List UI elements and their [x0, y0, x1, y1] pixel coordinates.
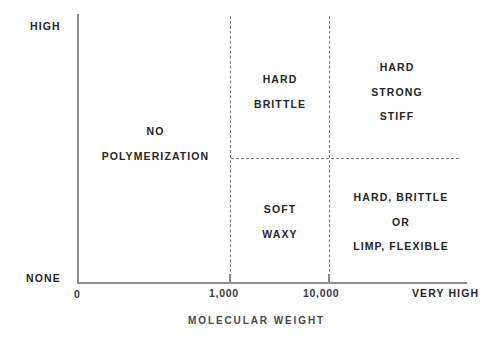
y-axis-title: CRYSTALLINITY [0, 84, 1, 186]
x-axis-label-1000: 1,000 [209, 288, 239, 299]
region-line: BRITTLE [234, 92, 326, 117]
region-line: STIFF [333, 104, 461, 129]
region-label-hard-strong-stiff: HARD STRONG STIFF [333, 55, 461, 129]
x-axis-title: MOLECULAR WEIGHT [188, 316, 325, 326]
region-line: STRONG [333, 80, 461, 105]
region-line: OR [333, 210, 469, 235]
y-axis-line [77, 14, 79, 284]
x-axis-label-zero: 0 [74, 289, 81, 300]
region-line: HARD [234, 67, 326, 92]
region-label-soft-waxy: SOFT WAXY [234, 197, 326, 246]
y-axis-label-high: HIGH [30, 21, 61, 32]
region-label-hard-brittle-or-limp-flexible: HARD, BRITTLE OR LIMP, FLEXIBLE [333, 185, 469, 259]
region-line: NO [83, 119, 228, 144]
region-line: HARD, BRITTLE [333, 185, 469, 210]
divider-vertical-10000 [329, 16, 330, 282]
region-line: POLYMERIZATION [83, 144, 228, 169]
crystallinity-molecular-weight-chart: HIGH NONE 0 1,000 10,000 VERY HIGH MOLEC… [0, 0, 487, 343]
x-axis-label-very-high: VERY HIGH [412, 288, 479, 299]
region-line: LIMP, FLEXIBLE [333, 234, 469, 259]
region-line: SOFT [234, 197, 326, 222]
x-axis-label-10000: 10,000 [303, 288, 339, 299]
y-axis-label-none: NONE [26, 273, 61, 284]
region-label-hard-brittle: HARD BRITTLE [234, 67, 326, 116]
divider-vertical-1000 [230, 16, 231, 282]
region-line: HARD [333, 55, 461, 80]
x-axis-line [77, 282, 467, 284]
region-label-no-polymerization: NO POLYMERIZATION [83, 119, 228, 168]
divider-horizontal-mid-crystallinity [231, 158, 459, 159]
region-line: WAXY [234, 222, 326, 247]
